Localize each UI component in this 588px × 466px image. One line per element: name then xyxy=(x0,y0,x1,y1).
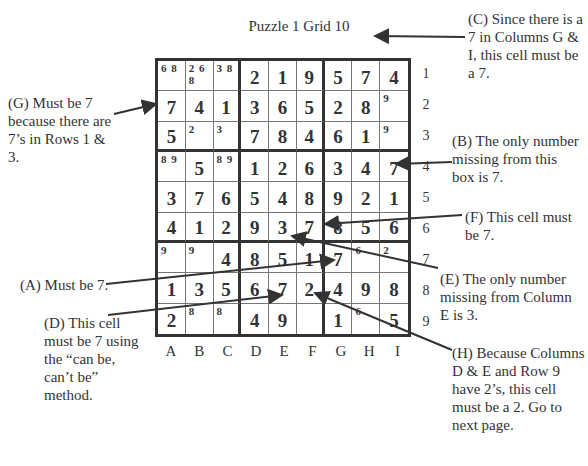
arrow-c xyxy=(375,36,465,37)
cell-I2[interactable]: 9 xyxy=(380,91,408,121)
cell-A1[interactable]: 6 8 xyxy=(158,61,186,91)
cell-C6[interactable]: 2 xyxy=(214,213,242,243)
cell-candidates: 8 xyxy=(217,305,224,317)
cell-A2[interactable]: 7 xyxy=(158,91,186,121)
cell-F9[interactable] xyxy=(297,304,325,334)
cell-H4[interactable]: 4 xyxy=(352,152,380,182)
cell-F6[interactable]: 7 xyxy=(297,213,325,243)
cell-E2[interactable]: 6 xyxy=(269,91,297,121)
cell-G7[interactable]: 7 xyxy=(325,243,353,273)
cell-E3[interactable]: 8 xyxy=(269,122,297,152)
cell-H8[interactable]: 9 xyxy=(352,273,380,303)
cell-G5[interactable]: 9 xyxy=(325,182,353,212)
cell-C5[interactable]: 6 xyxy=(214,182,242,212)
cell-F7[interactable]: 1 xyxy=(297,243,325,273)
cell-I1[interactable]: 4 xyxy=(380,61,408,91)
cell-C9[interactable]: 8 xyxy=(214,304,242,334)
cell-A6[interactable]: 4 xyxy=(158,213,186,243)
cell-H2[interactable]: 8 xyxy=(352,91,380,121)
cell-C3[interactable]: 3 xyxy=(214,122,242,152)
cell-value: 8 xyxy=(278,126,288,148)
cell-value: 7 xyxy=(333,249,343,271)
cell-value: 5 xyxy=(250,188,260,210)
cell-H3[interactable]: 1 xyxy=(352,122,380,152)
cell-D1[interactable]: 2 xyxy=(241,61,269,91)
cell-D8[interactable]: 6 xyxy=(241,273,269,303)
cell-C8[interactable]: 5 xyxy=(214,273,242,303)
arrow-g xyxy=(114,104,156,114)
cell-E7[interactable]: 5 xyxy=(269,243,297,273)
cell-I9[interactable]: 5 xyxy=(380,304,408,334)
note-g: (G) Must be 7 because there are 7’s in R… xyxy=(8,94,118,166)
cell-G1[interactable]: 5 xyxy=(325,61,353,91)
cell-value: 9 xyxy=(305,67,315,89)
cell-E8[interactable]: 7 xyxy=(269,273,297,303)
cell-B1[interactable]: 2 6 8 xyxy=(186,61,214,91)
cell-H6[interactable]: 5 xyxy=(352,213,380,243)
cell-value: 9 xyxy=(333,188,343,210)
cell-F5[interactable]: 8 xyxy=(297,182,325,212)
cell-D3[interactable]: 7 xyxy=(241,122,269,152)
cell-F4[interactable]: 6 xyxy=(297,152,325,182)
cell-B5[interactable]: 7 xyxy=(186,182,214,212)
cell-A4[interactable]: 8 9 xyxy=(158,152,186,182)
cell-A8[interactable]: 1 xyxy=(158,273,186,303)
cell-F1[interactable]: 9 xyxy=(297,61,325,91)
cell-I6[interactable]: 6 xyxy=(380,213,408,243)
cell-G9[interactable]: 1 xyxy=(325,304,353,334)
cell-B3[interactable]: 2 xyxy=(186,122,214,152)
cell-I8[interactable]: 8 xyxy=(380,273,408,303)
cell-I5[interactable]: 1 xyxy=(380,182,408,212)
cell-G8[interactable]: 4 xyxy=(325,273,353,303)
cell-D9[interactable]: 4 xyxy=(241,304,269,334)
cell-F3[interactable]: 4 xyxy=(297,122,325,152)
cell-D7[interactable]: 8 xyxy=(241,243,269,273)
cell-E5[interactable]: 4 xyxy=(269,182,297,212)
cell-A9[interactable]: 2 xyxy=(158,304,186,334)
cell-I7[interactable]: 2 xyxy=(380,243,408,273)
cell-D6[interactable]: 9 xyxy=(241,213,269,243)
cell-E9[interactable]: 9 xyxy=(269,304,297,334)
cell-B7[interactable]: 9 xyxy=(186,243,214,273)
cell-H5[interactable]: 2 xyxy=(352,182,380,212)
cell-H9[interactable]: 6 xyxy=(352,304,380,334)
cell-A3[interactable]: 5 xyxy=(158,122,186,152)
column-label: F xyxy=(299,343,327,360)
cell-value: 8 xyxy=(250,249,260,271)
cell-B8[interactable]: 3 xyxy=(186,273,214,303)
cell-H7[interactable]: 6 xyxy=(352,243,380,273)
cell-C4[interactable]: 8 9 xyxy=(214,152,242,182)
cell-value: 6 xyxy=(305,158,315,180)
cell-G3[interactable]: 6 xyxy=(325,122,353,152)
cell-E6[interactable]: 3 xyxy=(269,213,297,243)
note-c: (C) Since there is a 7 in Columns G & I,… xyxy=(468,10,588,82)
cell-B4[interactable]: 5 xyxy=(186,152,214,182)
cell-A7[interactable]: 9 xyxy=(158,243,186,273)
cell-D2[interactable]: 3 xyxy=(241,91,269,121)
cell-I3[interactable]: 9 xyxy=(380,122,408,152)
cell-D5[interactable]: 5 xyxy=(241,182,269,212)
cell-value: 8 xyxy=(333,217,343,239)
cell-F8[interactable]: 2 xyxy=(297,273,325,303)
cell-G2[interactable]: 2 xyxy=(325,91,353,121)
cell-B2[interactable]: 4 xyxy=(186,91,214,121)
cell-D4[interactable]: 1 xyxy=(241,152,269,182)
row-label: 9 xyxy=(419,314,433,330)
cell-C2[interactable]: 1 xyxy=(214,91,242,121)
cell-value: 7 xyxy=(389,158,399,180)
cell-E4[interactable]: 2 xyxy=(269,152,297,182)
cell-C7[interactable]: 4 xyxy=(214,243,242,273)
cell-G4[interactable]: 3 xyxy=(325,152,353,182)
cell-A5[interactable]: 3 xyxy=(158,182,186,212)
cell-B6[interactable]: 1 xyxy=(186,213,214,243)
cell-H1[interactable]: 7 xyxy=(352,61,380,91)
cell-B9[interactable]: 8 xyxy=(186,304,214,334)
cell-G6[interactable]: 8 xyxy=(325,213,353,243)
cell-C1[interactable]: 3 8 xyxy=(214,61,242,91)
cell-value: 1 xyxy=(167,279,177,301)
column-label: C xyxy=(214,343,242,360)
cell-F2[interactable]: 5 xyxy=(297,91,325,121)
cell-E1[interactable]: 1 xyxy=(269,61,297,91)
cell-I4[interactable]: 7 xyxy=(380,152,408,182)
cell-value: 3 xyxy=(333,158,343,180)
